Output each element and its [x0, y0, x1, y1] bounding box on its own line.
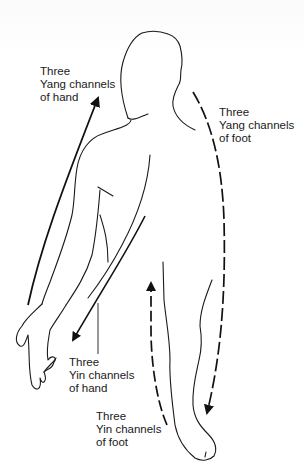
left-shoulder-outline	[128, 114, 148, 119]
forearm-line-2	[100, 215, 108, 262]
label-yin-channels-of-hand: Three Yin channels of hand	[69, 356, 134, 395]
torso-right-outline	[163, 262, 216, 460]
label-line: Yin channels	[69, 369, 134, 382]
label-line: Three	[219, 106, 294, 119]
yin-hand-arrow	[73, 216, 145, 340]
arm-inner-outline	[88, 155, 150, 298]
foot-toes	[205, 452, 206, 457]
label-line: of foot	[219, 132, 294, 145]
hand-outline	[16, 304, 66, 389]
label-yang-channels-of-hand: Three Yang channels of hand	[40, 65, 115, 104]
label-yin-channels-of-foot: Three Yin channels of foot	[96, 410, 161, 449]
label-line: of hand	[40, 91, 115, 104]
label-line: Yin channels	[96, 423, 161, 436]
label-line: Three	[96, 410, 161, 423]
label-yang-channels-of-foot: Three Yang channels of foot	[219, 106, 294, 145]
label-line: of hand	[69, 382, 134, 395]
forearm-line	[66, 190, 100, 305]
channel-flow-diagram: Three Yang channels of hand Three Yang c…	[0, 0, 304, 474]
thumb-outline	[44, 358, 56, 372]
head-outline	[121, 31, 195, 130]
label-line: Yang channels	[219, 119, 294, 132]
label-line: Three	[69, 356, 134, 369]
label-line: Yang channels	[40, 78, 115, 91]
yang-hand-arrow	[28, 98, 98, 305]
label-line: Three	[40, 65, 115, 78]
label-line: of foot	[96, 436, 161, 449]
